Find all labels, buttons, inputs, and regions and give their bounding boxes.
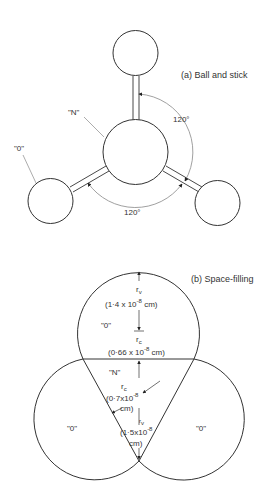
angle-label-lower: 120°	[124, 208, 141, 217]
atom-label-o-top: "0"	[101, 321, 111, 330]
nitrogen-rv-value: (1·5x10-8	[120, 426, 153, 437]
atom-label-o-right: "0"	[196, 424, 206, 433]
nitrogen-rv-unit: cm)	[129, 439, 143, 448]
nitrogen-rc-value: (0·7x10-8	[106, 392, 139, 403]
atom-label-o: "0"	[14, 144, 24, 153]
nitrogen-rc-symbol: rc	[121, 382, 127, 392]
ball-and-stick-model: (a) Ball and stick "N" "0" 120° 120°	[14, 31, 248, 226]
oxygen-ball-right	[195, 181, 240, 226]
angle-arc-bottom	[88, 183, 182, 208]
oxygen-rv-value: (1·4 x 10-8 cm)	[105, 298, 158, 309]
bond-top	[133, 76, 139, 120]
leader-line-o	[23, 155, 36, 183]
angle-label-upper: 120°	[173, 115, 190, 124]
atom-label-n: "N"	[68, 108, 80, 117]
oxygen-sphere-right	[139, 359, 244, 480]
nitrate-diagram: (a) Ball and stick "N" "0" 120° 120° (b)…	[0, 0, 268, 500]
panel-b-title: (b) Space-filling	[191, 274, 254, 284]
nitrogen-rc-unit: cm)	[120, 404, 134, 413]
bond-right	[163, 166, 202, 192]
atom-label-o-left: "0"	[67, 424, 77, 433]
rc-nitrogen-leader	[143, 381, 160, 393]
oxygen-ball-left	[28, 179, 73, 224]
space-filling-model: (b) Space-filling "0" "N" "0" "0" rv (1·…	[34, 272, 254, 480]
nitrogen-rv-symbol: rv	[139, 418, 144, 426]
oxygen-sphere-left	[34, 359, 139, 480]
panel-a-title: (a) Ball and stick	[181, 70, 248, 80]
atom-label-n: "N"	[109, 368, 121, 377]
oxygen-ball-top	[113, 31, 158, 76]
bond-left	[70, 166, 109, 192]
oxygen-rc-value: (0·66 x 10-8 cm)	[108, 346, 165, 357]
leader-line-n	[84, 117, 104, 137]
nitrogen-ball-center	[103, 120, 168, 185]
